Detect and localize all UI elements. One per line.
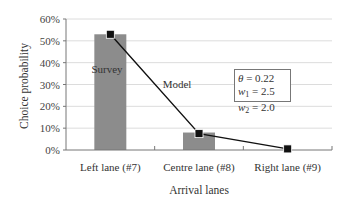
model-marker (284, 145, 292, 153)
theta-param: θ = 0.22 (238, 72, 287, 85)
y-axis-label: Choice probability (18, 43, 31, 129)
model-marker (106, 30, 114, 38)
survey-bar (94, 34, 126, 150)
x-axis-label: Arrival lanes (169, 184, 229, 196)
y-tick-label: 10% (40, 122, 60, 134)
w2-param: w2 = 2.0 (238, 101, 287, 117)
x-category-label: Centre lane (#8) (163, 161, 235, 174)
parameters-box: θ = 0.22 w1 = 2.5 w2 = 2.0 (234, 69, 291, 102)
y-tick-label: 60% (40, 13, 60, 25)
y-tick-label: 50% (40, 35, 60, 47)
y-tick-label: 20% (40, 100, 60, 112)
model-annotation: Model (163, 78, 192, 90)
x-category-label: Left lane (#7) (80, 161, 141, 174)
x-category-labels: Left lane (#7)Centre lane (#8)Right lane… (80, 161, 321, 174)
y-tick-labels: 0%10%20%30%40%50%60% (40, 13, 60, 156)
model-marker (195, 130, 203, 138)
w1-param: w1 = 2.5 (238, 85, 287, 101)
y-tick-label: 30% (40, 79, 60, 91)
y-tick-label: 40% (40, 57, 60, 69)
x-category-label: Right lane (#9) (254, 161, 321, 174)
chart: 0%10%20%30%40%50%60% Left lane (#7)Centr… (0, 0, 347, 208)
y-tick-label: 0% (45, 144, 60, 156)
survey-annotation: Survey (91, 63, 123, 75)
